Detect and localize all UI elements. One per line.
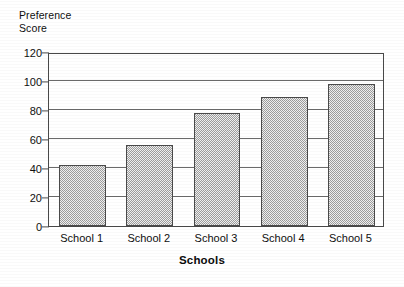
x-axis-title: Schools (0, 254, 404, 266)
y-tick-label-0: 0 (2, 221, 42, 233)
x-tick-label-5: School 5 (317, 232, 384, 244)
x-tick-label-3: School 3 (182, 232, 249, 244)
y-tick-mark-100 (42, 81, 49, 82)
bar-chart-figure: Preference Score 020406080100120 School … (0, 0, 404, 287)
y-tick-label-120: 120 (2, 47, 42, 59)
plot-area (48, 53, 384, 227)
y-tick-label-80: 80 (2, 105, 42, 117)
bar-2 (126, 145, 173, 226)
bar-3 (194, 113, 241, 226)
y-tick-mark-60 (42, 139, 49, 140)
y-tick-mark-120 (42, 52, 49, 53)
bar-1 (59, 165, 106, 226)
gridline-100 (49, 80, 383, 81)
y-tick-mark-40 (42, 168, 49, 169)
x-tick-label-4: School 4 (250, 232, 317, 244)
y-axis-title: Preference Score (19, 9, 71, 34)
y-tick-mark-0 (42, 226, 49, 227)
y-tick-label-20: 20 (2, 192, 42, 204)
y-tick-label-100: 100 (2, 76, 42, 88)
y-tick-label-40: 40 (2, 163, 42, 175)
x-tick-label-1: School 1 (48, 232, 115, 244)
y-tick-label-60: 60 (2, 134, 42, 146)
bar-5 (328, 84, 375, 226)
y-tick-mark-20 (42, 197, 49, 198)
bar-4 (261, 97, 308, 226)
x-tick-label-2: School 2 (115, 232, 182, 244)
y-tick-mark-80 (42, 110, 49, 111)
